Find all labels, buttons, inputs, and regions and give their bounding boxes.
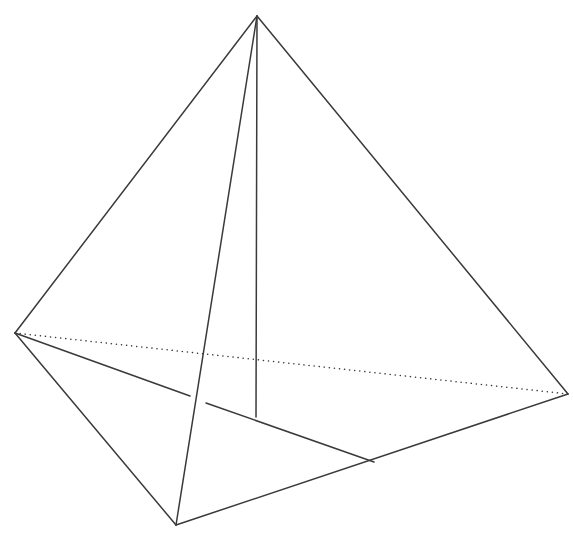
edge-altitude-apex-to-foot xyxy=(256,16,257,417)
figure-background xyxy=(0,0,573,543)
tetrahedron-figure xyxy=(0,0,573,543)
tetrahedron-svg-canvas xyxy=(0,0,573,543)
